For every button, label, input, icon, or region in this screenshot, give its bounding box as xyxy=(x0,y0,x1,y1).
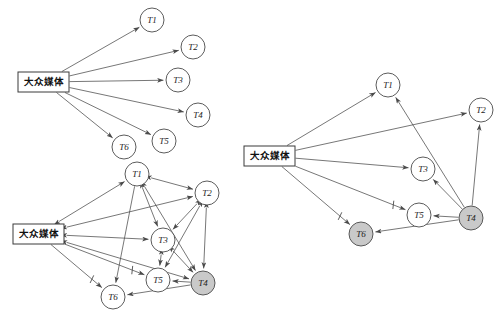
edge-media-to-t5 xyxy=(65,93,151,135)
node-t6[interactable]: T6 xyxy=(349,222,373,246)
node-label: T3 xyxy=(158,235,168,245)
nodes-layer: 大众媒体T1T2T3T4T5T6大众媒体T1T2T3T5T4T6大众媒体T1T2… xyxy=(13,8,493,309)
edge-media-to-t1 xyxy=(62,27,139,71)
node-t4[interactable]: T4 xyxy=(186,103,210,127)
media-source-label: 大众媒体 xyxy=(250,150,290,161)
edge-t1-to-t2 xyxy=(151,178,193,189)
node-t6[interactable]: T6 xyxy=(101,285,125,309)
node-label: T1 xyxy=(132,169,142,179)
node-t5[interactable]: T5 xyxy=(146,268,170,292)
node-t4[interactable]: T4 xyxy=(191,271,215,295)
node-t2[interactable]: T2 xyxy=(469,98,493,122)
media-source-label: 大众媒体 xyxy=(24,76,64,87)
graph-diagram: 大众媒体T1T2T3T4T5T6大众媒体T1T2T3T5T4T6大众媒体T1T2… xyxy=(0,0,503,320)
node-label: T2 xyxy=(188,42,198,52)
node-label: T4 xyxy=(193,110,203,120)
node-t1[interactable]: T1 xyxy=(376,73,400,97)
edge-media-to-t6 xyxy=(282,167,350,225)
node-t1[interactable]: T1 xyxy=(140,8,164,32)
node-label: T6 xyxy=(356,229,366,239)
node-t1[interactable]: T1 xyxy=(125,162,149,186)
node-label: T3 xyxy=(173,75,183,85)
diagram-canvas: 大众媒体T1T2T3T4T5T6大众媒体T1T2T3T5T4T6大众媒体T1T2… xyxy=(0,0,503,320)
edge-media-to-t5 xyxy=(65,244,145,275)
edge-cut-slash xyxy=(338,212,342,220)
node-label: T3 xyxy=(418,164,428,174)
edge-t3-to-t5 xyxy=(160,254,161,265)
edge-cut-slash xyxy=(90,275,94,283)
edge-cut-slash xyxy=(393,201,394,209)
node-t4[interactable]: T4 xyxy=(459,206,483,230)
edge-media-to-t1 xyxy=(287,93,375,146)
edge-media-to-t2 xyxy=(70,50,179,76)
node-t5[interactable]: T5 xyxy=(152,129,176,153)
edge-media-to-t3 xyxy=(70,80,164,81)
node-t3[interactable]: T3 xyxy=(411,157,435,181)
node-label: T4 xyxy=(198,278,208,288)
edge-media-to-t3 xyxy=(296,158,409,168)
media-source-box[interactable]: 大众媒体 xyxy=(18,72,69,92)
node-t5[interactable]: T5 xyxy=(407,203,431,227)
edge-t4-to-t3 xyxy=(433,179,462,209)
edge-media-to-t5 xyxy=(296,166,406,209)
edge-t1-to-t6 xyxy=(116,186,135,282)
edge-t2-to-t4 xyxy=(204,208,207,269)
edge-t4-to-t5 xyxy=(434,216,459,217)
node-label: T5 xyxy=(414,210,424,220)
node-label: T6 xyxy=(108,292,118,302)
edge-media-to-t2 xyxy=(296,113,467,150)
node-t3[interactable]: T3 xyxy=(166,68,190,92)
node-label: T1 xyxy=(147,15,157,25)
node-t2[interactable]: T2 xyxy=(195,181,219,205)
node-t2[interactable]: T2 xyxy=(181,35,205,59)
edge-media-to-t4 xyxy=(70,88,184,112)
node-t6[interactable]: T6 xyxy=(112,135,136,159)
node-label: T4 xyxy=(466,213,476,223)
edge-media-to-t6 xyxy=(57,93,113,138)
node-t3[interactable]: T3 xyxy=(151,228,175,252)
edge-media-to-t3 xyxy=(67,235,149,239)
node-label: T1 xyxy=(383,80,393,90)
edge-t4-to-t5 xyxy=(173,281,191,282)
edge-t1-to-t4 xyxy=(145,186,196,270)
media-source-box[interactable]: 大众媒体 xyxy=(244,146,295,166)
edge-t4-to-t1 xyxy=(396,97,465,207)
node-label: T5 xyxy=(159,136,169,146)
node-label: T2 xyxy=(476,105,486,115)
edge-t1-to-t3 xyxy=(142,188,157,227)
media-source-box[interactable]: 大众媒体 xyxy=(13,224,64,244)
edge-t4-to-t2 xyxy=(472,125,480,206)
edge-cut-slash xyxy=(132,266,133,274)
node-label: T5 xyxy=(153,275,163,285)
node-label: T2 xyxy=(202,188,212,198)
media-source-label: 大众媒体 xyxy=(19,228,59,239)
node-label: T6 xyxy=(119,142,129,152)
